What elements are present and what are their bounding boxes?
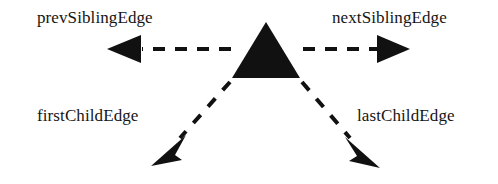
diagram-canvas: [0, 0, 498, 184]
edge-label-prev-sibling-edge: prevSiblingEdge: [37, 8, 153, 27]
diagram-background: [0, 0, 498, 184]
edge-label-last-child-edge: lastChildEdge: [357, 106, 455, 125]
edge-label-next-sibling-edge: nextSiblingEdge: [332, 8, 447, 27]
edge-label-first-child-edge: firstChildEdge: [37, 106, 139, 125]
